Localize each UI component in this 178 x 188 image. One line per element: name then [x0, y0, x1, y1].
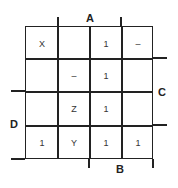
- label-d: D: [10, 118, 18, 130]
- label-c: C: [158, 86, 166, 98]
- cell-r3c1: Y: [58, 126, 90, 159]
- cell-r1c2: 1: [90, 59, 122, 92]
- cell-r0c2: 1: [90, 27, 122, 60]
- cell-r1c1: –: [58, 59, 90, 92]
- c-region-tick: [153, 57, 167, 59]
- cell-r3c0: 1: [26, 126, 58, 159]
- cell-r1c3: [122, 59, 154, 92]
- cell-r2c3: [122, 92, 154, 125]
- d-region-tick: [11, 90, 25, 92]
- a-region-tick: [120, 17, 122, 26]
- cell-r0c0: X: [26, 27, 58, 60]
- cell-r3c3: 1: [122, 126, 154, 159]
- label-a: A: [86, 12, 94, 24]
- a-region-tick: [57, 17, 59, 26]
- c-region-tick: [153, 124, 167, 126]
- cell-r2c2: 1: [90, 92, 122, 125]
- b-region-tick: [152, 159, 154, 168]
- cell-r2c1: Z: [58, 92, 90, 125]
- cell-r3c2: 1: [90, 126, 122, 159]
- karnaugh-map: X 1 – – 1 Z 1 1 Y 1 1: [25, 26, 153, 159]
- d-region-tick: [11, 158, 25, 160]
- b-region-tick: [88, 159, 90, 168]
- cell-r1c0: [26, 59, 58, 92]
- cell-r0c1: [58, 27, 90, 60]
- cell-r2c0: [26, 92, 58, 125]
- label-b: B: [116, 163, 124, 175]
- cell-r0c3: –: [122, 27, 154, 60]
